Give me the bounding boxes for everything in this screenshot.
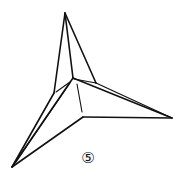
tripod-star-shape: [12, 13, 172, 167]
left-flap-outer-edge: [12, 93, 54, 167]
right-flap-top-edge: [73, 78, 172, 118]
origami-diagram: [0, 0, 193, 178]
left-flap-bottom-edge: [12, 117, 83, 167]
step-number-label: ⑤: [81, 151, 94, 166]
right-flap-bottom-edge: [83, 117, 172, 118]
center-crease-vertical: [77, 84, 82, 112]
top-flap-left-edge: [54, 13, 65, 93]
right-flap-top-edge-2: [96, 83, 172, 118]
left-flap-inner-edge-2: [16, 83, 70, 162]
